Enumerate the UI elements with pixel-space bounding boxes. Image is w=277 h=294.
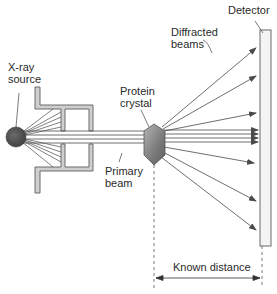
transmitted-beams	[164, 130, 258, 142]
xray-source-icon	[6, 127, 26, 147]
diffracted-beams-label: Diffracted beams	[171, 26, 218, 50]
primary-beam	[20, 131, 146, 143]
primary-beam-label: Primary beam	[105, 165, 143, 189]
diffracted-beams	[161, 48, 256, 230]
known-distance-label: Known distance	[173, 261, 251, 273]
known-distance-arrow	[156, 276, 260, 281]
diffraction-diagram	[0, 0, 277, 294]
collimator-lower	[35, 144, 93, 193]
xray-source-label: X-ray source	[8, 61, 41, 85]
detector-plate	[260, 30, 271, 246]
protein-crystal-icon	[144, 124, 165, 165]
protein-crystal-label: Protein crystal	[120, 85, 155, 109]
detector-label: Detector	[228, 4, 270, 16]
